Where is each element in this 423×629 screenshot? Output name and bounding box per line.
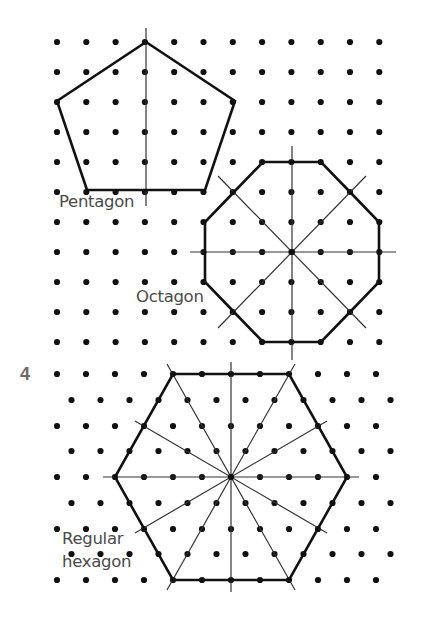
grid-dot: [54, 129, 60, 135]
grid-dot: [54, 39, 60, 45]
grid-dot: [200, 159, 206, 165]
iso-grid-dot: [358, 397, 364, 403]
grid-dot: [54, 339, 60, 345]
grid-dot: [54, 159, 60, 165]
iso-grid-dot: [112, 371, 118, 377]
grid-dot: [83, 249, 89, 255]
iso-grid-dot: [83, 577, 89, 583]
grid-dot: [142, 69, 148, 75]
grid-dot: [113, 39, 119, 45]
iso-grid-dot: [329, 551, 335, 557]
grid-dot: [171, 159, 177, 165]
grid-dot: [288, 39, 294, 45]
grid-dot: [113, 249, 119, 255]
iso-grid-dot: [112, 423, 118, 429]
iso-grid-dot: [242, 397, 248, 403]
iso-grid-dot: [112, 577, 118, 583]
iso-grid-dot: [170, 423, 176, 429]
grid-dot: [200, 69, 206, 75]
iso-grid-dot: [344, 371, 350, 377]
iso-grid-dot: [358, 500, 364, 506]
iso-grid-dot: [373, 423, 379, 429]
grid-dot: [171, 39, 177, 45]
grid-dot: [347, 159, 353, 165]
grid-dot: [83, 69, 89, 75]
grid-dot: [113, 279, 119, 285]
grid-dot: [200, 339, 206, 345]
iso-grid-dot: [97, 397, 103, 403]
grid-dot: [347, 339, 353, 345]
grid-dot: [113, 219, 119, 225]
grid-dot: [142, 309, 148, 315]
iso-grid-dot: [54, 371, 60, 377]
grid-dot: [171, 129, 177, 135]
grid-dot: [347, 129, 353, 135]
grid-dot: [347, 39, 353, 45]
grid-dot: [259, 69, 265, 75]
grid-dot: [376, 39, 382, 45]
iso-grid-dot: [83, 371, 89, 377]
grid-dot: [376, 69, 382, 75]
polygon-symmetry-figure: Pentagon Octagon Regular hexagon 4: [0, 0, 423, 629]
grid-dot: [347, 279, 353, 285]
iso-grid-dot: [315, 371, 321, 377]
iso-grid-dot: [300, 448, 306, 454]
grid-dot: [318, 129, 324, 135]
grid-dot: [200, 309, 206, 315]
grid-dot: [376, 99, 382, 105]
grid-dot: [171, 309, 177, 315]
iso-grid-dot: [141, 371, 147, 377]
grid-dot: [230, 69, 236, 75]
grid-dot: [113, 69, 119, 75]
grid-dot: [142, 249, 148, 255]
hexagon-label-line1: Regular: [62, 531, 123, 548]
grid-dot: [54, 69, 60, 75]
grid-dot: [347, 219, 353, 225]
iso-grid-dot: [213, 551, 219, 557]
grid-dot: [259, 129, 265, 135]
grid-dot: [288, 99, 294, 105]
grid-dot: [54, 279, 60, 285]
grid-dot: [142, 279, 148, 285]
grid-dot: [113, 159, 119, 165]
iso-grid-dot: [83, 474, 89, 480]
grid-dot: [200, 129, 206, 135]
grid-dot: [142, 219, 148, 225]
iso-grid-dot: [315, 577, 321, 583]
iso-grid-dot: [286, 526, 292, 532]
iso-grid-dot: [68, 448, 74, 454]
grid-dot: [230, 219, 236, 225]
iso-grid-dot: [387, 551, 393, 557]
grid-dot: [171, 249, 177, 255]
iso-grid-dot: [373, 371, 379, 377]
iso-grid-dot: [83, 423, 89, 429]
grid-dot: [142, 159, 148, 165]
iso-grid-dot: [387, 448, 393, 454]
grid-dot: [142, 129, 148, 135]
grid-dot: [376, 309, 382, 315]
grid-dot: [288, 69, 294, 75]
grid-dot: [83, 159, 89, 165]
grid-dot: [83, 99, 89, 105]
hexagon-center-dot: [228, 474, 234, 480]
iso-grid-dot: [54, 526, 60, 532]
iso-grid-dot: [329, 397, 335, 403]
iso-grid-dot: [286, 423, 292, 429]
grid-dot: [347, 69, 353, 75]
iso-grid-dot: [141, 577, 147, 583]
hexagon-label-line2: hexagon: [62, 554, 131, 571]
grid-dot: [171, 279, 177, 285]
grid-dot: [54, 249, 60, 255]
grid-dot: [83, 39, 89, 45]
iso-grid-dot: [373, 474, 379, 480]
grid-dot: [113, 129, 119, 135]
iso-grid-dot: [300, 500, 306, 506]
iso-grid-dot: [126, 397, 132, 403]
grid-dot: [113, 309, 119, 315]
iso-grid-dot: [344, 526, 350, 532]
grid-dot: [230, 129, 236, 135]
iso-grid-dot: [344, 577, 350, 583]
iso-grid-dot: [373, 577, 379, 583]
grid-dot: [230, 159, 236, 165]
grid-dot: [318, 189, 324, 195]
